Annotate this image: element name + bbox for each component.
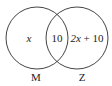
venn-diagram: x 10 2x + 10 M Z [0,0,112,86]
set-m-label: M [31,71,41,83]
region-intersection: 10 [52,32,64,44]
region-z-only-rest: + 10 [81,32,104,44]
set-z-label: Z [79,71,86,83]
region-m-only: x [26,32,32,44]
region-z-only: 2x + 10 [70,32,104,44]
region-z-only-var: 2x [70,32,81,44]
